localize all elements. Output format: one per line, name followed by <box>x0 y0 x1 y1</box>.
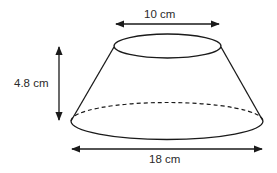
frustum-left-side <box>71 47 114 121</box>
bottom-diameter-label: 18 cm <box>149 154 180 166</box>
bottom-face-front <box>71 121 263 140</box>
bottom-face-back-dashed <box>71 103 263 122</box>
height-label: 4.8 cm <box>14 78 49 90</box>
top-face-ellipse <box>114 34 221 58</box>
frustum-diagram: 10 cm 4.8 cm 18 cm <box>0 0 277 173</box>
top-diameter-label: 10 cm <box>144 9 175 21</box>
